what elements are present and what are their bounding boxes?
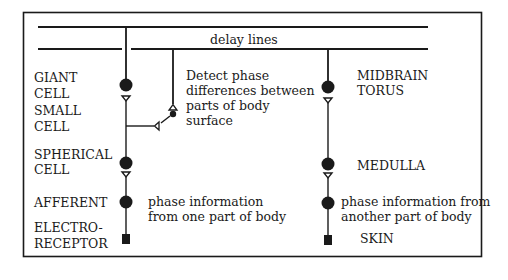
right-pathway: MIDBRAIN TORUS MEDULLA phase information… <box>322 49 495 246</box>
midbrain-torus-soma <box>322 81 335 94</box>
right-afferent-soma <box>322 197 335 210</box>
label-spherical-cell: SPHERICAL CELL <box>34 147 116 177</box>
spherical-cell-soma <box>120 157 133 170</box>
small-cell-input-synapse-icon <box>155 122 160 130</box>
small-cell-soma <box>170 111 176 117</box>
giant-cell-synapse-icon <box>122 96 130 101</box>
annotation-phase-right: phase information from another part of b… <box>341 194 494 224</box>
label-electroreceptor: ELECTRO- RECEPTOR <box>34 220 108 251</box>
annotation-detect-phase: Detect phase differences between parts o… <box>186 68 318 128</box>
label-skin: SKIN <box>360 231 394 246</box>
skin-receptor-icon <box>324 235 332 245</box>
label-small-cell: SMALL CELL <box>34 103 85 134</box>
medulla-synapse-icon <box>324 173 332 178</box>
label-medulla: MEDULLA <box>357 158 426 173</box>
spherical-cell-synapse-icon <box>122 172 130 177</box>
label-midbrain-torus: MIDBRAIN TORUS <box>357 68 432 98</box>
giant-cell-soma <box>120 79 133 92</box>
small-cell-diagonal <box>161 116 170 123</box>
left-pathway: GIANT CELL SMALL CELL SPHERICAL CELL AFF… <box>33 27 318 251</box>
label-afferent: AFFERENT <box>33 195 108 210</box>
neural-pathway-diagram: delay lines GIANT CELL SMALL CELL SPHERI… <box>0 0 508 280</box>
delay-lines-label: delay lines <box>210 32 278 47</box>
electroreceptor-icon <box>122 234 130 244</box>
afferent-soma <box>120 196 133 209</box>
label-giant-cell: GIANT CELL <box>34 70 81 101</box>
midbrain-synapse-icon <box>324 98 332 103</box>
medulla-soma <box>322 158 335 171</box>
annotation-phase-left: phase information from one part of body <box>148 194 287 224</box>
small-cell-output-synapse-icon <box>169 105 177 111</box>
